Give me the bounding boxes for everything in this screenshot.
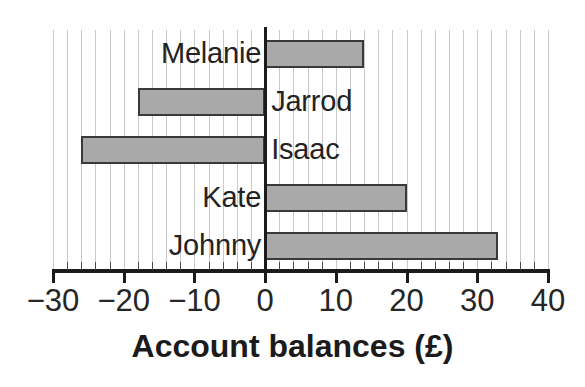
tick-major [264,269,267,283]
tick-minor [180,262,181,270]
tick-minor [237,262,238,270]
category-label: Kate [0,183,261,212]
tick-minor [421,262,422,270]
tick-major [406,269,409,283]
tick-minor [534,262,535,270]
tick-minor [251,262,252,270]
bar [138,88,265,116]
tick-label: 0 [257,285,274,316]
tick-major [335,269,338,283]
tick-label: 30 [460,285,494,316]
bar [265,40,364,68]
category-label: Jarrod [271,87,585,116]
tick-minor [520,262,521,270]
tick-minor [350,262,351,270]
tick-minor [152,262,153,270]
tick-minor [364,262,365,270]
tick-minor [449,262,450,270]
tick-minor [435,262,436,270]
tick-minor [506,262,507,270]
tick-minor [463,262,464,270]
tick-minor [81,262,82,270]
bar [265,184,406,212]
tick-label: 10 [319,285,353,316]
tick-label: −20 [97,285,150,316]
tick-label: −10 [168,285,221,316]
zero-baseline [264,27,267,271]
tick-minor [223,262,224,270]
tick-minor [322,262,323,270]
category-label: Melanie [0,39,261,68]
tick-minor [279,262,280,270]
tick-minor [308,262,309,270]
tick-minor [67,262,68,270]
tick-minor [95,262,96,270]
tick-minor [491,262,492,270]
x-axis-line [53,269,549,273]
tick-label: −30 [27,285,80,316]
tick-major [123,269,126,283]
tick-label: 40 [531,285,565,316]
bar [81,136,265,164]
bar [265,232,498,260]
tick-major [547,269,550,283]
tick-minor [392,262,393,270]
tick-minor [138,262,139,270]
tick-major [476,269,479,283]
tick-minor [110,262,111,270]
tick-minor [209,262,210,270]
category-label: Johnny [0,231,261,260]
category-label: Isaac [271,135,585,164]
tick-minor [378,262,379,270]
tick-major [193,269,196,283]
tick-major [52,269,55,283]
tick-minor [166,262,167,270]
bar-chart: MelanieJarrodIsaacKateJohnny −30−20−1001… [0,0,585,387]
tick-minor [293,262,294,270]
x-axis-title: Account balances (£) [0,330,585,362]
tick-label: 20 [389,285,423,316]
